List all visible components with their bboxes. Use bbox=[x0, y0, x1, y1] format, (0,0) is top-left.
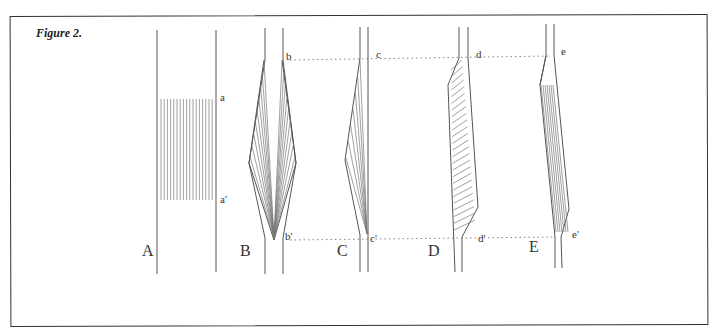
mark-a: a bbox=[220, 91, 225, 103]
mark-a-prime: a' bbox=[220, 193, 227, 205]
mark-c-prime: c' bbox=[370, 232, 377, 244]
mark-e: e bbox=[561, 45, 566, 57]
mark-d: d bbox=[476, 48, 482, 60]
label-c: C bbox=[337, 242, 348, 259]
label-b: B bbox=[240, 242, 251, 259]
label-e: E bbox=[529, 238, 539, 255]
reference-line-bottom bbox=[290, 237, 555, 240]
reference-line-top bbox=[290, 56, 550, 60]
panel-e: e e' E bbox=[529, 24, 579, 268]
label-a: A bbox=[142, 242, 154, 259]
panel-a: a a' A bbox=[142, 30, 227, 274]
mark-c: c bbox=[376, 48, 381, 60]
mark-e-prime: e' bbox=[572, 228, 579, 240]
panel-d: d d' D bbox=[428, 27, 486, 272]
figure-drawing: a a' A b b' B c c' C d d' D e e' E bbox=[0, 0, 721, 335]
panel-b: b b' B bbox=[240, 28, 296, 274]
panel-c: c c' C bbox=[337, 27, 381, 272]
label-d: D bbox=[428, 242, 440, 259]
